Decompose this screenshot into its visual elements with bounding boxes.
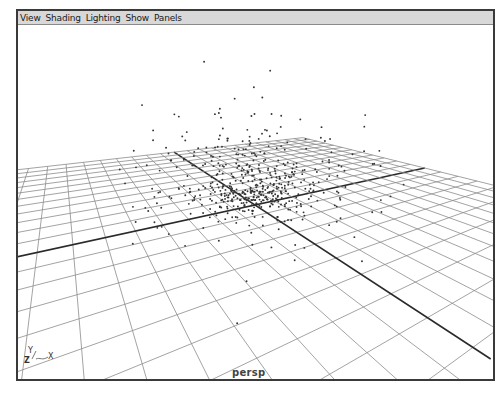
axis-gizmo-icon xyxy=(30,347,54,363)
perspective-scene xyxy=(18,25,493,379)
menu-view[interactable]: View xyxy=(19,13,45,23)
menu-shading[interactable]: Shading xyxy=(45,13,85,23)
panel-menubar: View Shading Lighting Show Panels xyxy=(18,11,493,25)
gizmo-z-label: Z xyxy=(24,356,30,365)
menu-panels[interactable]: Panels xyxy=(153,13,186,23)
menu-show[interactable]: Show xyxy=(125,13,153,23)
3d-viewport[interactable]: Y Z X persp xyxy=(18,25,493,379)
camera-label: persp xyxy=(232,367,265,378)
menu-lighting[interactable]: Lighting xyxy=(85,13,125,23)
viewport-panel: View Shading Lighting Show Panels Y Z X … xyxy=(16,9,495,381)
